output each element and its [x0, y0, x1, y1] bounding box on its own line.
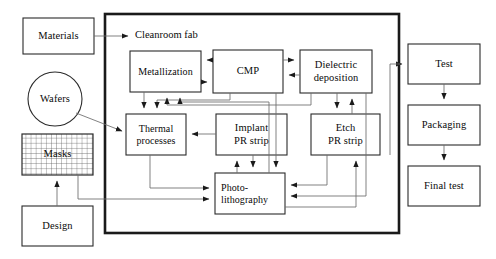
edge-cmp-to-thermal — [157, 93, 230, 108]
node-cmp — [213, 50, 283, 93]
node-materials — [23, 18, 94, 54]
node-dielectric-deposition — [300, 50, 372, 93]
semiconductor-fab-flow-diagram: Cleanroom fab Materials Wafers Masks Des… — [0, 0, 496, 259]
node-wafers — [28, 72, 82, 126]
edge-thermal-to-photolithography — [150, 155, 209, 188]
edge-wafers-to-thermal — [76, 113, 122, 131]
node-packaging — [408, 105, 480, 145]
node-design — [22, 206, 93, 246]
cleanroom-fab-caption: Cleanroom fab — [135, 29, 198, 41]
node-etch-pr-strip — [311, 114, 380, 155]
edge-etch-to-photolithography — [291, 155, 327, 185]
edge-dielectric-to-metallization — [167, 93, 311, 105]
node-test — [408, 44, 480, 84]
node-masks — [22, 134, 93, 175]
node-metallization — [130, 51, 201, 92]
node-photolithography — [215, 173, 285, 214]
edge-masks-to-photolithography — [78, 175, 209, 199]
node-thermal-processes — [126, 114, 186, 155]
diagram-canvas — [0, 0, 496, 259]
node-final-test — [408, 166, 480, 206]
edge-photolithography-to-etch — [285, 161, 356, 207]
